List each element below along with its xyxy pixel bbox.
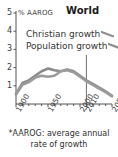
y-axis-tick-label: 5 bbox=[2, 8, 12, 17]
y-axis-tick-label: 3 bbox=[2, 44, 12, 53]
y-axis-tick-label: 1 bbox=[2, 81, 12, 90]
y-axis-tick-label: 2 bbox=[2, 63, 12, 72]
y-axis-tick-label: 4 bbox=[2, 26, 12, 35]
chart-figure: % AAROG World Christian growth Populatio… bbox=[0, 0, 118, 157]
footnote-line-2: rate of growth bbox=[0, 140, 118, 151]
footnote-line-1: *AAROG: average annual bbox=[0, 129, 118, 140]
chart-footnote: *AAROG: average annual rate of growth bbox=[0, 129, 118, 150]
series-line-2 bbox=[16, 70, 112, 96]
